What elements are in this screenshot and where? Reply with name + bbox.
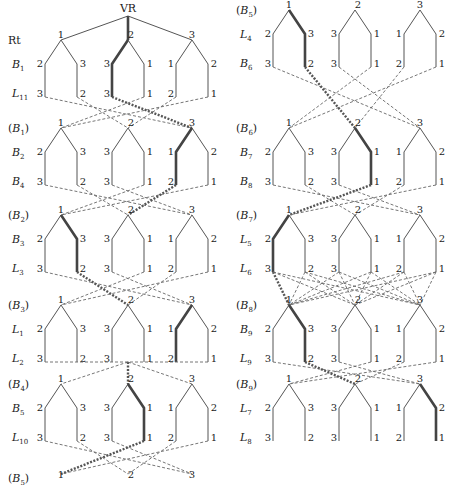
branch-right <box>289 128 305 185</box>
leaf-label-right: 1 <box>147 176 153 187</box>
branch-right <box>128 305 144 362</box>
branch-left <box>339 10 355 67</box>
transition-edge <box>61 97 208 128</box>
leaf-label-right: 2 <box>80 432 86 443</box>
shoulder-label-left: 3 <box>104 233 110 244</box>
shoulder-label-right: 1 <box>374 28 380 39</box>
leaf-label-right: 1 <box>147 263 153 274</box>
row-label-top: (B8) <box>236 299 257 314</box>
shoulder-label-left: 3 <box>331 323 337 334</box>
branch-left <box>112 215 128 272</box>
row-label-bot: L10 <box>11 431 28 446</box>
row-label-top: (B9) <box>236 378 257 393</box>
leaf-label-left: 3 <box>37 432 43 443</box>
shoulder-label-right: 1 <box>374 233 380 244</box>
branch-right <box>128 215 144 272</box>
leaf-label-right: 1 <box>439 176 445 187</box>
shoulder-label-right: 3 <box>308 233 314 244</box>
shoulder-label-left: 1 <box>168 58 174 69</box>
leaf-label-right: 1 <box>439 263 445 274</box>
apex-node-label: 2 <box>355 204 361 215</box>
apex-node-label: 3 <box>189 294 195 305</box>
shoulder-label-left: 2 <box>265 28 271 39</box>
branch-left <box>339 215 355 272</box>
root-edge-3 <box>128 16 192 40</box>
shoulder-label-right: 2 <box>211 323 217 334</box>
branch-left <box>176 384 192 441</box>
leaf-label-left: 3 <box>104 432 110 443</box>
leaf-label-right: 1 <box>211 432 217 443</box>
row-label-top: (B3) <box>8 299 29 314</box>
transition-edge <box>45 97 192 128</box>
branch-left <box>339 384 355 441</box>
shoulder-label-left: 1 <box>396 28 402 39</box>
branch-right <box>420 128 436 185</box>
leaf-label-right: 1 <box>374 58 380 69</box>
row-label-bot: L9 <box>239 352 252 367</box>
shoulder-label-right: 1 <box>147 58 153 69</box>
branch-left <box>404 384 420 441</box>
shoulder-label-left: 3 <box>331 402 337 413</box>
leaf-label-left: 3 <box>331 176 337 187</box>
transition-edge <box>289 185 436 215</box>
branch-left <box>404 128 420 185</box>
leaf-label-left: 2 <box>396 353 402 364</box>
transition-edge <box>355 272 436 305</box>
shoulder-label-right: 3 <box>80 323 86 334</box>
leaf-label-right: 2 <box>80 176 86 187</box>
row-label-mid: B5 <box>11 402 25 417</box>
row-label-bot: L11 <box>11 87 28 102</box>
apex-node-label: 2 <box>355 117 361 128</box>
branch-right <box>420 305 436 362</box>
root-label: VR <box>119 2 137 15</box>
leaf-label-right: 1 <box>147 88 153 99</box>
shoulder-label-right: 3 <box>80 402 86 413</box>
leaf-label-left: 3 <box>37 176 43 187</box>
transition-edge <box>273 185 420 215</box>
leaf-label-left: 3 <box>37 263 43 274</box>
branch-left <box>273 305 289 362</box>
branch-left <box>45 305 61 362</box>
shoulder-label-left: 1 <box>168 146 174 157</box>
shoulder-label-right: 3 <box>308 28 314 39</box>
leaf-label-right: 1 <box>211 88 217 99</box>
row-label-mid: L1 <box>11 323 24 338</box>
row-label-bot: B8 <box>239 175 253 190</box>
branch-left <box>176 40 192 97</box>
leaf-label-left: 3 <box>37 353 43 364</box>
branch-right <box>289 305 305 362</box>
leaf-label-right: 2 <box>308 432 314 443</box>
apex-node-label: 1 <box>286 294 292 305</box>
shoulder-label-left: 2 <box>37 233 43 244</box>
leaf-label-left: 2 <box>168 176 174 187</box>
final-node-label: 1 <box>58 469 64 480</box>
branch-left <box>45 40 61 97</box>
branch-left <box>176 128 192 185</box>
leaf-label-left: 3 <box>331 263 337 274</box>
row-label-top: (B1) <box>8 122 29 137</box>
apex-node-label: 3 <box>417 117 423 128</box>
leaf-label-right: 1 <box>374 176 380 187</box>
apex-node-label: 2 <box>128 117 134 128</box>
shoulder-label-right: 3 <box>80 146 86 157</box>
shoulder-label-left: 3 <box>104 402 110 413</box>
branch-right <box>420 10 436 67</box>
row-label-bot: L2 <box>11 352 24 367</box>
leaf-label-right: 2 <box>80 263 86 274</box>
leaf-label-right: 1 <box>147 432 153 443</box>
shoulder-label-left: 3 <box>331 146 337 157</box>
row-label-bot: L6 <box>239 262 252 277</box>
row-label-bot: L8 <box>239 431 252 446</box>
apex-node-label: 3 <box>417 204 423 215</box>
branch-right <box>192 384 208 441</box>
row-label-mid: L5 <box>239 233 252 248</box>
apex-node-label: 3 <box>189 29 195 40</box>
shoulder-label-right: 2 <box>439 402 445 413</box>
row-label-bot: L3 <box>11 262 24 277</box>
branch-left <box>404 10 420 67</box>
row-label-top: (B4) <box>8 378 29 393</box>
apex-node-label: 1 <box>286 204 292 215</box>
branch-right <box>61 305 77 362</box>
shoulder-label-left: 1 <box>168 323 174 334</box>
branch-right <box>128 128 144 185</box>
